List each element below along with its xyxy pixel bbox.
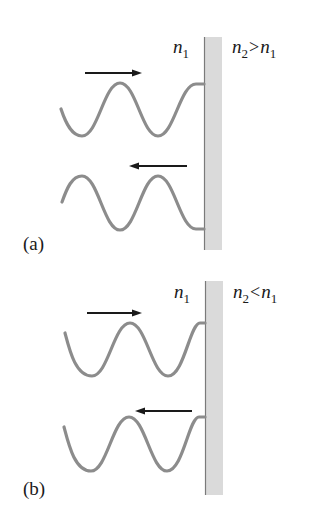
panel-label-a: (a) bbox=[23, 233, 44, 255]
label-left-medium-b: n1 bbox=[174, 281, 190, 306]
panel-label-b: (b) bbox=[23, 478, 45, 500]
arrow-right-icon bbox=[85, 70, 142, 77]
arrow-left-icon bbox=[129, 163, 187, 170]
reflected-wave-a bbox=[62, 176, 204, 230]
label-right-medium-b: n2<n1 bbox=[233, 281, 277, 306]
incident-wave-b bbox=[65, 323, 205, 376]
wave-reflection-diagram: n1 n2>n1 (a) n1 n2<n1 bbox=[0, 0, 316, 522]
label-left-medium-a: n1 bbox=[173, 36, 189, 61]
panel-b: n1 n2<n1 (b) bbox=[23, 281, 277, 500]
label-right-medium-a: n2>n1 bbox=[232, 36, 276, 61]
boundary-wall-b bbox=[205, 281, 223, 495]
panel-a: n1 n2>n1 (a) bbox=[23, 36, 276, 255]
incident-wave-a bbox=[61, 83, 204, 136]
arrow-left-icon bbox=[135, 408, 192, 415]
reflected-wave-b bbox=[64, 417, 205, 471]
boundary-wall-a bbox=[204, 37, 222, 250]
arrow-right-icon bbox=[87, 310, 142, 317]
